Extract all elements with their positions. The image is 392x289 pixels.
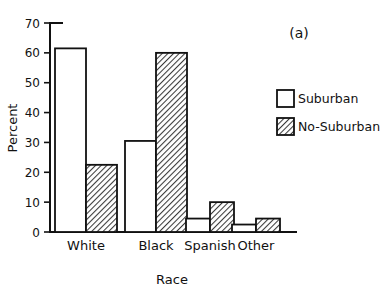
legend-label-no-suburban: No-Suburban <box>298 119 380 134</box>
y-axis-tick-label: 50 <box>25 76 40 90</box>
x-axis-tick-label-white: White <box>67 238 105 253</box>
panel-label: (a) <box>289 25 309 41</box>
hatched-square-icon <box>277 118 294 135</box>
bar-black-no-suburban <box>156 53 187 232</box>
y-axis-tick-label: 20 <box>25 166 40 180</box>
open-square-icon <box>277 90 294 107</box>
bar-other-suburban <box>232 225 256 232</box>
bar-white-no-suburban <box>86 165 117 232</box>
x-axis-labels: WhiteBlackSpanishOther <box>67 238 275 253</box>
bar-spanish-no-suburban <box>210 202 234 232</box>
x-axis-tick-label-other: Other <box>238 238 276 253</box>
bar-other-no-suburban <box>256 219 280 232</box>
bar-black-suburban <box>125 141 156 232</box>
x-axis-title: Race <box>156 272 188 287</box>
y-axis-title: Percent <box>5 104 20 153</box>
y-axis-tick-label: 70 <box>25 17 40 31</box>
x-axis-tick-label-black: Black <box>138 238 174 253</box>
bars-group <box>55 48 280 232</box>
x-axis-tick-label-spanish: Spanish <box>184 238 235 253</box>
legend-label-suburban: Suburban <box>298 91 358 106</box>
bar-chart: 010203040506070 WhiteBlackSpanishOther R… <box>0 0 392 289</box>
y-axis-tick-label: 0 <box>32 226 40 240</box>
y-axis-tick-label: 30 <box>25 136 40 150</box>
y-axis-tick-label: 40 <box>25 106 40 120</box>
bar-white-suburban <box>55 48 86 232</box>
figure-container: 010203040506070 WhiteBlackSpanishOther R… <box>0 0 392 289</box>
bar-spanish-suburban <box>186 219 210 232</box>
y-axis: 010203040506070 <box>25 17 50 240</box>
y-axis-tick-label: 10 <box>25 196 40 210</box>
y-axis-tick-label: 60 <box>25 46 40 60</box>
legend: SuburbanNo-Suburban <box>277 90 380 135</box>
